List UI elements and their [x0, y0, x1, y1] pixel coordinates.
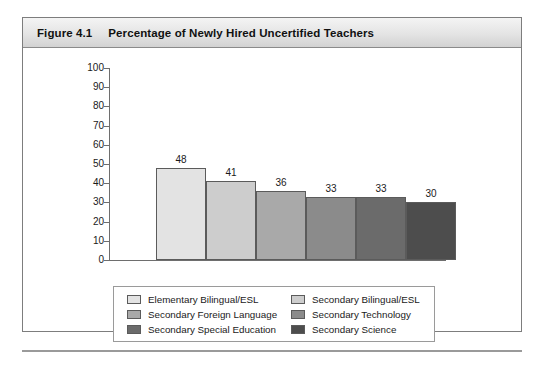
- y-axis-tick-label: 70: [93, 121, 104, 131]
- y-axis-tick: [104, 241, 109, 242]
- y-axis-tick-label: 30: [93, 197, 104, 207]
- y-axis-tick-label: 10: [93, 236, 104, 246]
- x-axis-line: [109, 260, 446, 261]
- legend-row: Elementary Bilingual/ESLSecondary Biling…: [114, 292, 434, 307]
- legend-item-label: Secondary Technology: [312, 309, 411, 320]
- bar-value-label: 33: [356, 183, 406, 194]
- legend-item: Elementary Bilingual/ESL: [114, 294, 289, 305]
- bar: [206, 181, 256, 260]
- bar-value-label: 30: [406, 188, 456, 199]
- legend-item-label: Elementary Bilingual/ESL: [148, 294, 259, 305]
- y-axis-tick-label: 40: [93, 178, 104, 188]
- figure-title-bar: Figure 4.1 Percentage of Newly Hired Unc…: [23, 18, 521, 48]
- y-axis-tick: [104, 126, 109, 127]
- page-title: Percentage of Newly Hired Uncertified Te…: [108, 27, 374, 39]
- y-axis-tick-labels: 1009080706050403020100: [71, 68, 104, 260]
- y-axis-tick: [104, 202, 109, 203]
- bar-value-label: 36: [256, 177, 306, 188]
- legend-row: Secondary Special EducationSecondary Sci…: [114, 322, 434, 337]
- footer-divider: [22, 350, 522, 352]
- y-axis-tick: [104, 260, 109, 261]
- legend-color-swatch: [291, 295, 305, 304]
- legend-color-swatch: [291, 310, 305, 319]
- y-axis-tick: [104, 164, 109, 165]
- y-axis-tick: [104, 68, 109, 69]
- plot-area: 1009080706050403020100 484136333330: [109, 68, 465, 278]
- figure-number-label: Figure 4.1: [37, 27, 92, 39]
- legend-item-label: Secondary Foreign Language: [148, 309, 277, 320]
- legend-color-swatch: [127, 325, 141, 334]
- legend-color-swatch: [127, 295, 141, 304]
- y-axis-tick-label: 80: [93, 101, 104, 111]
- y-axis-tick-label: 50: [93, 159, 104, 169]
- bar: [356, 197, 406, 260]
- y-axis-tick-label: 20: [93, 217, 104, 227]
- bar-chart: 1009080706050403020100 484136333330 Subj…: [23, 48, 521, 333]
- bar-series: 484136333330: [110, 68, 446, 260]
- y-axis-tick: [104, 106, 109, 107]
- legend-item-label: Secondary Science: [312, 324, 396, 335]
- legend-color-swatch: [291, 325, 305, 334]
- y-axis-tick: [104, 145, 109, 146]
- bar: [406, 202, 456, 260]
- bar-value-label: 48: [156, 154, 206, 165]
- chart-legend: Elementary Bilingual/ESLSecondary Biling…: [113, 286, 435, 342]
- legend-item: Secondary Foreign Language: [114, 309, 289, 320]
- legend-item: Secondary Special Education: [114, 324, 289, 335]
- y-axis-tick-label: 100: [87, 63, 104, 73]
- bar-value-label: 33: [306, 183, 356, 194]
- legend-item-label: Secondary Bilingual/ESL: [312, 294, 420, 305]
- y-axis-tick: [104, 183, 109, 184]
- bar: [306, 197, 356, 260]
- legend-item-label: Secondary Special Education: [148, 324, 276, 335]
- y-axis-tick-label: 60: [93, 140, 104, 150]
- legend-item: Secondary Science: [289, 324, 434, 335]
- legend-color-swatch: [127, 310, 141, 319]
- bar: [156, 168, 206, 260]
- y-axis-tick: [104, 222, 109, 223]
- legend-item: Secondary Technology: [289, 309, 434, 320]
- y-axis-tick-label: 90: [93, 82, 104, 92]
- figure-container: Figure 4.1 Percentage of Newly Hired Unc…: [22, 17, 522, 332]
- bar-value-label: 41: [206, 167, 256, 178]
- legend-item: Secondary Bilingual/ESL: [289, 294, 434, 305]
- y-axis-tick: [104, 87, 109, 88]
- bar: [256, 191, 306, 260]
- legend-row: Secondary Foreign LanguageSecondary Tech…: [114, 307, 434, 322]
